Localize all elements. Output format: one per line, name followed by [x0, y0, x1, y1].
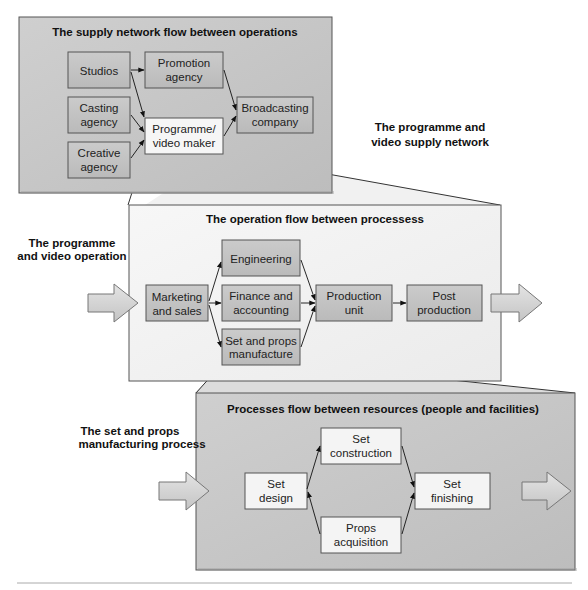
node-casting-agency[interactable]: Casting agency [68, 97, 130, 133]
process-side-label-2: manufacturing process [78, 438, 205, 450]
process-side-label-1: The set and props [80, 425, 179, 437]
process-title: Processes flow between resources (people… [227, 403, 539, 415]
svg-text:company: company [252, 116, 299, 128]
node-programme-video-maker[interactable]: Programme/ video maker [145, 118, 223, 154]
operation-side-label-2: and video operation [17, 250, 126, 262]
node-creative-agency[interactable]: Creative agency [68, 142, 130, 178]
supply-network-title: The supply network flow between operatio… [52, 26, 297, 38]
supply-network-panel: The supply network flow between operatio… [19, 17, 334, 194]
node-broadcasting-company[interactable]: Broadcasting company [237, 97, 313, 133]
supply-network-side-label-1: The programme and [375, 121, 486, 133]
svg-text:finishing: finishing [431, 492, 473, 504]
diagram-canvas: The supply network flow between operatio… [0, 0, 588, 590]
operation-side-label-1: The programme [29, 237, 116, 249]
supply-network-side-label-2: video supply network [371, 136, 489, 148]
svg-text:Engineering: Engineering [230, 253, 291, 265]
svg-text:unit: unit [345, 304, 364, 316]
operation-title: The operation flow between processess [206, 213, 424, 225]
svg-text:acquisition: acquisition [334, 536, 388, 548]
svg-text:Set: Set [443, 478, 461, 490]
svg-text:Set: Set [352, 433, 370, 445]
svg-text:accounting: accounting [233, 304, 289, 316]
svg-text:production: production [417, 304, 471, 316]
svg-text:agency: agency [80, 116, 117, 128]
svg-text:Broadcasting: Broadcasting [241, 102, 308, 114]
node-set-finishing[interactable]: Set finishing [415, 473, 490, 509]
operation-panel: The operation flow between processess Ma… [129, 205, 501, 381]
svg-text:Promotion: Promotion [158, 57, 210, 69]
svg-text:Studios: Studios [80, 65, 119, 77]
node-set-and-props-manufacture[interactable]: Set and props manufacture [222, 329, 300, 365]
svg-text:Props: Props [346, 522, 376, 534]
svg-text:Marketing: Marketing [152, 291, 203, 303]
svg-text:Finance and: Finance and [229, 290, 292, 302]
svg-text:Casting: Casting [80, 102, 119, 114]
svg-text:agency: agency [80, 161, 117, 173]
svg-text:construction: construction [330, 447, 392, 459]
svg-text:Programme/: Programme/ [152, 123, 216, 135]
node-marketing-and-sales[interactable]: Marketing and sales [146, 285, 208, 321]
svg-text:Production: Production [327, 290, 382, 302]
svg-text:Set and props: Set and props [225, 335, 297, 347]
svg-text:design: design [259, 492, 293, 504]
node-finance-and-accounting[interactable]: Finance and accounting [222, 285, 300, 321]
node-studios[interactable]: Studios [68, 52, 130, 88]
node-post-production[interactable]: Post production [407, 285, 482, 321]
svg-text:Creative: Creative [78, 147, 121, 159]
node-promotion-agency[interactable]: Promotion agency [145, 52, 223, 88]
process-panel: Processes flow between resources (people… [196, 393, 577, 571]
node-set-construction[interactable]: Set construction [321, 428, 401, 464]
svg-text:and sales: and sales [152, 305, 201, 317]
node-production-unit[interactable]: Production unit [316, 285, 392, 321]
node-props-acquisition[interactable]: Props acquisition [321, 517, 401, 553]
svg-text:Post: Post [432, 290, 456, 302]
svg-text:video maker: video maker [153, 137, 216, 149]
svg-text:agency: agency [165, 71, 202, 83]
svg-text:manufacture: manufacture [229, 348, 293, 360]
svg-text:Set: Set [267, 478, 285, 490]
node-engineering[interactable]: Engineering [222, 240, 300, 276]
node-set-design[interactable]: Set design [245, 473, 307, 509]
